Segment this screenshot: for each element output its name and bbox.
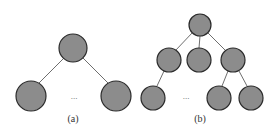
edge-a-root-left [39,58,64,83]
node-a-root [59,34,87,62]
tree-figure: ... (a) ... (b) [0,0,277,133]
panel-a: ... (a) [16,34,131,125]
node-a-leaf-right [101,81,131,111]
edge-b-root-child3 [207,32,226,51]
node-a-leaf-left [16,81,46,111]
edge-b-root-child2 [199,36,200,48]
edge-b-child3-leaf1 [222,71,228,86]
node-b-child3 [221,48,245,72]
ellipsis-b: ... [183,91,190,101]
edge-b-child1-leaf [157,71,164,86]
node-b-leaf1 [141,86,165,110]
label-b: (b) [194,113,206,125]
node-b-leaf2 [207,86,231,110]
node-b-leaf3 [239,86,263,110]
edge-a-root-right [83,58,108,83]
edge-b-child3-leaf2 [239,71,247,86]
ellipsis-a: ... [71,91,78,101]
node-b-root [189,14,211,36]
panel-b: ... (b) [141,14,263,125]
tree-diagram-svg: ... (a) ... (b) [0,0,277,133]
node-b-child1 [157,48,181,72]
edge-b-root-child1 [175,32,193,51]
label-a: (a) [67,113,78,125]
node-b-child2 [187,48,211,72]
